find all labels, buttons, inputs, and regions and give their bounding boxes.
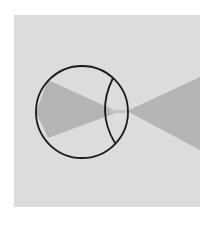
outer-light-cone: [127, 77, 200, 150]
lens-beam: [110, 110, 127, 113]
eye-diagram: [0, 0, 214, 228]
